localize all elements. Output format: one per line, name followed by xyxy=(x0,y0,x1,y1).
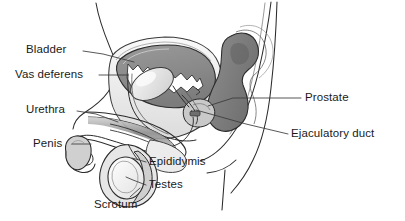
gluteal-fold xyxy=(207,160,236,173)
anatomy-diagram: Bladder Vas deferens Urethra Penis Prost… xyxy=(0,0,405,221)
label-urethra: Urethra xyxy=(26,103,65,116)
ejaculatory-duct-marker xyxy=(190,111,200,116)
label-prostate: Prostate xyxy=(305,91,349,104)
label-bladder: Bladder xyxy=(26,43,66,56)
label-epididymis: Epididymis xyxy=(149,155,206,168)
label-penis: Penis xyxy=(33,137,62,150)
thigh-contour xyxy=(222,170,225,210)
label-testes: Testes xyxy=(149,178,183,191)
label-scrotum: Scrotum xyxy=(94,198,138,211)
pubic-skin-contour xyxy=(73,113,84,129)
label-vas-deferens: Vas deferens xyxy=(15,68,83,81)
label-ejaculatory-duct: Ejaculatory duct xyxy=(291,127,374,140)
